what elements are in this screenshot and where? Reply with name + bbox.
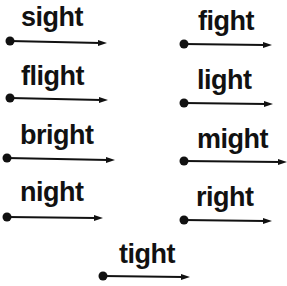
arrow-line-icon	[0, 0, 287, 286]
